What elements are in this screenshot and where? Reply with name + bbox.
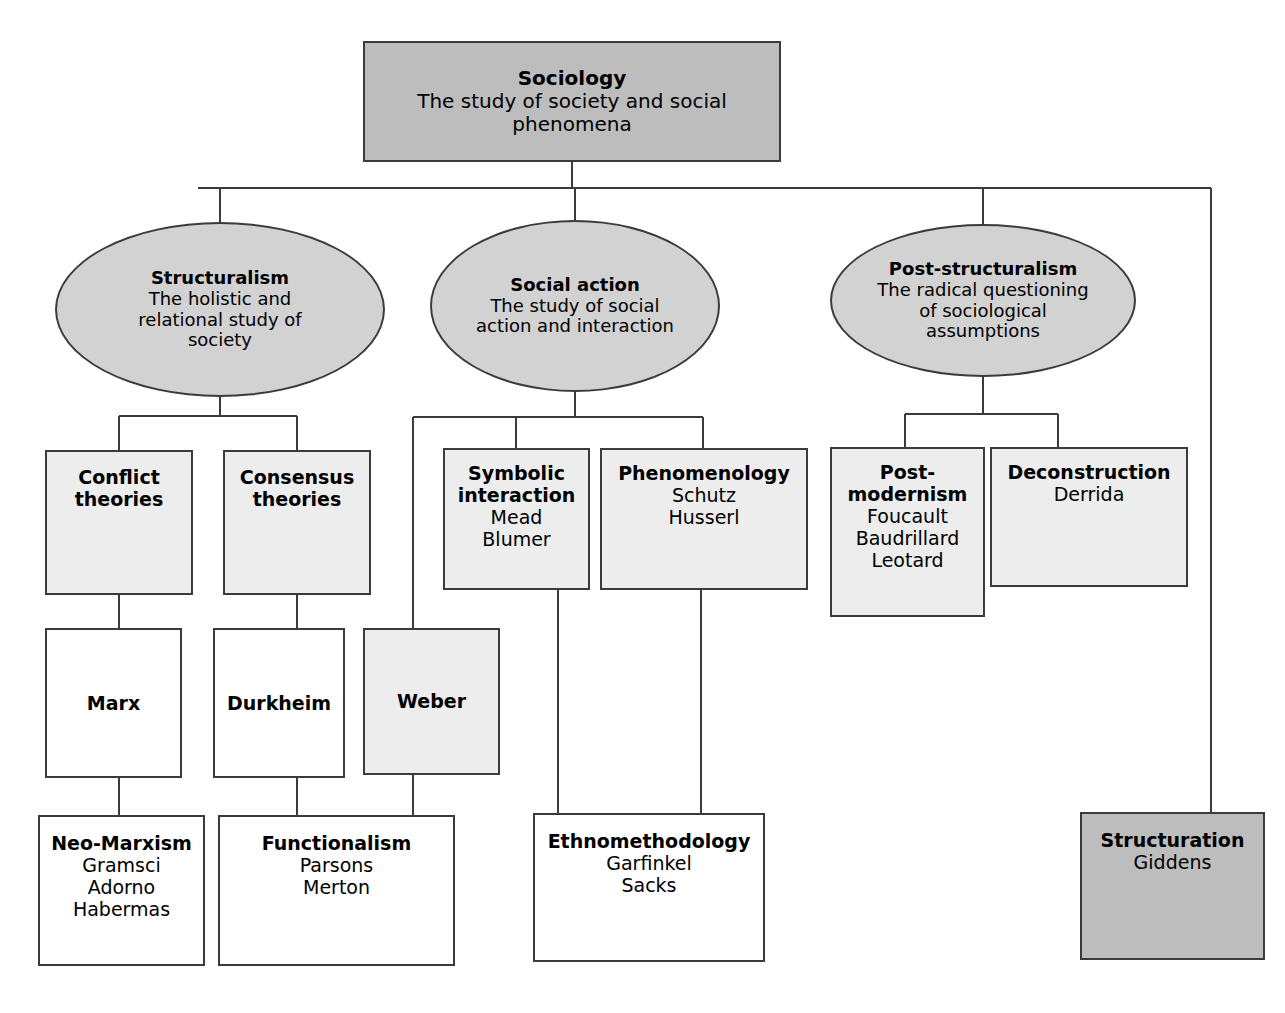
node-structuralism[interactable]: Structuralism The holistic and relationa… bbox=[55, 222, 385, 397]
node-post-modernism-title-1: Post- bbox=[880, 461, 935, 483]
node-durkheim-title: Durkheim bbox=[227, 692, 331, 714]
node-sociology[interactable]: Sociology The study of society and socia… bbox=[363, 41, 781, 162]
node-sociology-sub-1: The study of society and social bbox=[417, 90, 727, 113]
node-marx[interactable]: Marx bbox=[45, 628, 182, 778]
node-structuration-sub-1: Giddens bbox=[1134, 851, 1212, 873]
node-durkheim[interactable]: Durkheim bbox=[213, 628, 345, 778]
node-structuralism-sub-2: relational study of bbox=[138, 310, 301, 331]
node-structuration[interactable]: Structuration Giddens bbox=[1080, 812, 1265, 960]
node-functionalism-sub-1: Parsons bbox=[300, 854, 374, 876]
node-structuration-title: Structuration bbox=[1101, 829, 1245, 851]
node-social-action-sub-1: The study of social bbox=[490, 296, 659, 317]
node-symbolic-interaction-sub-2: Blumer bbox=[482, 528, 550, 550]
node-neo-marxism-sub-3: Habermas bbox=[73, 898, 170, 920]
node-deconstruction-title: Deconstruction bbox=[1007, 461, 1170, 483]
node-neo-marxism-sub-1: Gramsci bbox=[82, 854, 160, 876]
node-post-modernism-sub-1: Foucault bbox=[867, 505, 948, 527]
node-symbolic-interaction-title-2: interaction bbox=[458, 484, 576, 506]
node-functionalism[interactable]: Functionalism Parsons Merton bbox=[218, 815, 455, 966]
node-symbolic-interaction-sub-1: Mead bbox=[491, 506, 543, 528]
node-neo-marxism-title: Neo-Marxism bbox=[51, 832, 192, 854]
sociology-diagram: Sociology The study of society and socia… bbox=[0, 0, 1285, 1013]
node-post-structuralism-sub-1: The radical questioning bbox=[877, 280, 1088, 301]
node-structuralism-title: Structuralism bbox=[151, 268, 289, 289]
node-functionalism-title: Functionalism bbox=[262, 832, 411, 854]
node-social-action-sub-2: action and interaction bbox=[476, 316, 674, 337]
node-conflict-theories[interactable]: Conflict theories bbox=[45, 450, 193, 595]
node-post-structuralism-sub-3: assumptions bbox=[926, 321, 1040, 342]
node-deconstruction[interactable]: Deconstruction Derrida bbox=[990, 447, 1188, 587]
node-neo-marxism-sub-2: Adorno bbox=[88, 876, 156, 898]
node-marx-title: Marx bbox=[87, 692, 140, 714]
node-symbolic-interaction-title-1: Symbolic bbox=[468, 462, 565, 484]
node-post-modernism-sub-2: Baudrillard bbox=[856, 527, 960, 549]
node-post-structuralism-sub-2: of sociological bbox=[919, 301, 1047, 322]
node-phenomenology-title: Phenomenology bbox=[618, 462, 790, 484]
node-ethnomethodology[interactable]: Ethnomethodology Garfinkel Sacks bbox=[533, 813, 765, 962]
node-symbolic-interaction[interactable]: Symbolic interaction Mead Blumer bbox=[443, 448, 590, 590]
node-consensus-theories-title-2: theories bbox=[253, 488, 342, 510]
node-ethnomethodology-sub-1: Garfinkel bbox=[606, 852, 691, 874]
node-consensus-theories[interactable]: Consensus theories bbox=[223, 450, 371, 595]
node-post-modernism-title-2: modernism bbox=[848, 483, 968, 505]
node-neo-marxism[interactable]: Neo-Marxism Gramsci Adorno Habermas bbox=[38, 815, 205, 966]
node-conflict-theories-title-1: Conflict bbox=[78, 466, 159, 488]
node-weber-title: Weber bbox=[397, 690, 466, 712]
node-consensus-theories-title-1: Consensus bbox=[240, 466, 354, 488]
node-structuralism-sub-3: society bbox=[188, 330, 252, 351]
node-post-structuralism[interactable]: Post-structuralism The radical questioni… bbox=[830, 224, 1136, 377]
node-post-modernism-sub-3: Leotard bbox=[871, 549, 943, 571]
node-deconstruction-sub-1: Derrida bbox=[1054, 483, 1125, 505]
node-social-action[interactable]: Social action The study of social action… bbox=[430, 220, 720, 392]
node-post-modernism[interactable]: Post- modernism Foucault Baudrillard Leo… bbox=[830, 447, 985, 617]
node-phenomenology-sub-2: Husserl bbox=[669, 506, 740, 528]
node-social-action-title: Social action bbox=[510, 275, 640, 296]
node-ethnomethodology-title: Ethnomethodology bbox=[548, 830, 751, 852]
node-sociology-sub-2: phenomena bbox=[512, 113, 631, 136]
node-conflict-theories-title-2: theories bbox=[75, 488, 164, 510]
node-ethnomethodology-sub-2: Sacks bbox=[621, 874, 676, 896]
node-phenomenology-sub-1: Schutz bbox=[672, 484, 736, 506]
node-post-structuralism-title: Post-structuralism bbox=[889, 259, 1077, 280]
node-phenomenology[interactable]: Phenomenology Schutz Husserl bbox=[600, 448, 808, 590]
node-weber[interactable]: Weber bbox=[363, 628, 500, 775]
node-functionalism-sub-2: Merton bbox=[303, 876, 370, 898]
node-structuralism-sub-1: The holistic and bbox=[149, 289, 292, 310]
node-sociology-title: Sociology bbox=[518, 67, 627, 90]
